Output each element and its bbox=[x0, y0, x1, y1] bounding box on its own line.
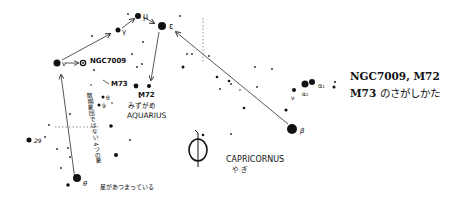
stars bbox=[27, 13, 337, 187]
label-capricornus-jp: や ぎ bbox=[232, 165, 248, 174]
label-capricornus: CAPRICORNUS bbox=[226, 155, 284, 164]
label-nine: 9 bbox=[102, 102, 106, 109]
star-beta bbox=[287, 124, 297, 134]
star-29 bbox=[27, 138, 32, 143]
label-theta: θ bbox=[83, 180, 88, 188]
star-nu-aqr bbox=[54, 60, 61, 67]
label-aquarius: AQUARIUS bbox=[127, 111, 166, 120]
tick-m73 bbox=[103, 80, 109, 84]
label-aquarius-jp: みずがめ bbox=[128, 101, 156, 110]
star-mu bbox=[135, 13, 141, 19]
caption-line-2: M73 のさがしかた bbox=[350, 85, 440, 102]
arrow-gamma-to-mu bbox=[122, 19, 134, 28]
caption-line-1: NGC7009, M72 bbox=[350, 68, 440, 85]
star-alpha1 bbox=[309, 79, 315, 85]
label-m73: M73 bbox=[111, 80, 128, 88]
arrow-theta-to-nu bbox=[61, 75, 75, 180]
chart-caption: NGC7009, M72 M73 のさがしかた bbox=[350, 68, 440, 102]
label-note-vertical: 散開星団ではない 4つの星 bbox=[85, 92, 102, 165]
label-gamma: γ bbox=[122, 28, 126, 36]
label-epsilon: ε bbox=[169, 22, 173, 31]
label-alpha1: α₁ bbox=[318, 82, 325, 90]
caption-m73: M73 bbox=[350, 87, 376, 99]
caption-how-to-find: のさがしかた bbox=[376, 87, 439, 99]
label-ngc7009: NGC7009 bbox=[90, 57, 126, 65]
m72-symbol bbox=[134, 84, 139, 89]
label-m72: M72 bbox=[138, 91, 155, 99]
star-epsilon bbox=[158, 22, 166, 30]
label-nu-cap: ν bbox=[291, 94, 295, 101]
saturn-icon bbox=[189, 130, 207, 167]
star-theta bbox=[73, 174, 81, 182]
chart-drawing: μ ε γ ν NGC7009 M73 M72 みずがめ AQUARIUS θ … bbox=[0, 0, 452, 204]
star-nu-cap bbox=[292, 88, 296, 92]
star-near-m72 bbox=[147, 84, 151, 88]
label-note-bottom: 星があつまっている bbox=[100, 183, 154, 191]
label-alpha2: α₂ bbox=[302, 90, 309, 97]
star-alpha2 bbox=[302, 81, 309, 88]
arrow-eps-to-m72 bbox=[151, 32, 159, 80]
label-nu-aqr: ν bbox=[62, 60, 66, 68]
label-theta-small: θ bbox=[106, 94, 110, 101]
label-29: 29 bbox=[34, 137, 42, 144]
star-gamma bbox=[116, 28, 121, 33]
label-beta: β bbox=[300, 127, 305, 135]
star-chart: μ ε γ ν NGC7009 M73 M72 みずがめ AQUARIUS θ … bbox=[0, 0, 452, 204]
label-mu: μ bbox=[143, 12, 148, 21]
arrow-beta-to-eps bbox=[176, 32, 288, 124]
